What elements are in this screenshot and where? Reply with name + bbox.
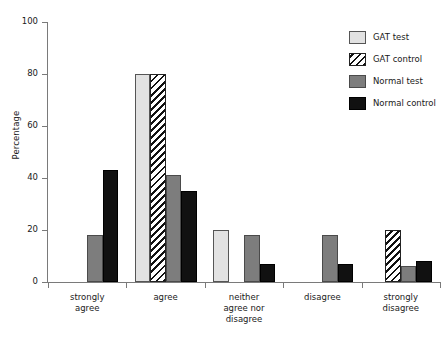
bar-normal-control <box>260 264 276 282</box>
x-axis-category-line: strongly <box>362 292 440 303</box>
x-axis-category-line: neither <box>205 292 283 303</box>
x-axis-category-line: agree <box>48 303 126 314</box>
x-axis-category-line: disagree <box>283 292 361 303</box>
x-axis-category-line: agree nor <box>205 303 283 314</box>
x-axis-category-line: disagree <box>205 314 283 325</box>
x-axis-category-line: strongly <box>48 292 126 303</box>
legend-label: Normal test <box>373 76 423 86</box>
legend-swatch-gat-control <box>349 53 366 66</box>
legend-swatch-gat-test <box>349 31 366 44</box>
x-axis-category-line: agree <box>126 292 204 303</box>
y-axis-tick-label: 60 <box>4 120 38 130</box>
bar-normal-control <box>103 170 119 282</box>
x-axis-category-label: neitheragree nordisagree <box>205 292 283 325</box>
legend-item-gat-control: GAT control <box>349 48 436 70</box>
x-axis-tick <box>126 282 127 288</box>
y-axis-title: Percentage <box>11 85 21 185</box>
x-axis-category-line: disagree <box>362 303 440 314</box>
y-axis-tick-label: 100 <box>4 16 38 26</box>
bar-normal-test <box>87 235 103 282</box>
legend-label: GAT test <box>373 32 409 42</box>
bar-normal-control <box>416 261 432 282</box>
legend-label: GAT control <box>373 54 422 64</box>
bar-normal-test <box>244 235 260 282</box>
x-axis-tick <box>440 282 441 288</box>
x-axis-category-label: agree <box>126 292 204 303</box>
legend-label: Normal control <box>373 98 436 108</box>
y-axis-tick-label: 0 <box>4 276 38 286</box>
bar-gat-test <box>213 230 229 282</box>
bar-gat-control <box>385 230 401 282</box>
x-axis-category-label: stronglydisagree <box>362 292 440 314</box>
y-axis-tick-label: 40 <box>4 172 38 182</box>
bar-chart: Percentage 020406080100 stronglyagreeagr… <box>0 0 448 341</box>
x-axis-category-label: disagree <box>283 292 361 303</box>
x-axis-tick <box>283 282 284 288</box>
bar-normal-test <box>322 235 338 282</box>
y-axis-tick-label: 80 <box>4 68 38 78</box>
bar-normal-test <box>401 266 417 282</box>
bar-normal-test <box>166 175 182 282</box>
legend-item-gat-test: GAT test <box>349 26 436 48</box>
bar-normal-control <box>338 264 354 282</box>
x-axis-tick <box>205 282 206 288</box>
y-axis-tick-label: 20 <box>4 224 38 234</box>
x-axis-line <box>47 282 440 283</box>
x-axis-category-label: stronglyagree <box>48 292 126 314</box>
bar-normal-control <box>181 191 197 282</box>
x-axis-tick <box>48 282 49 288</box>
legend-item-normal-control: Normal control <box>349 92 436 114</box>
bar-gat-control <box>150 74 166 282</box>
legend-swatch-normal-control <box>349 97 366 110</box>
x-axis-tick <box>362 282 363 288</box>
chart-legend: GAT testGAT controlNormal testNormal con… <box>349 26 436 114</box>
legend-swatch-normal-test <box>349 75 366 88</box>
legend-item-normal-test: Normal test <box>349 70 436 92</box>
bar-gat-test <box>135 74 151 282</box>
